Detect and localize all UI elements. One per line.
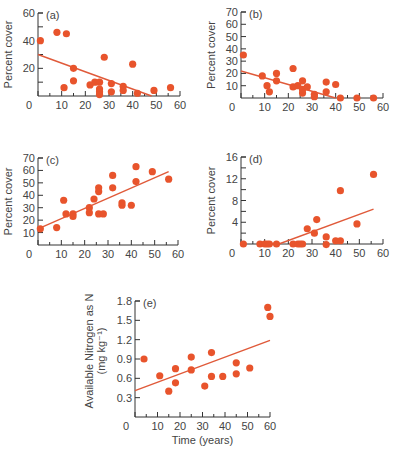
data-point	[60, 197, 67, 204]
data-point	[299, 240, 306, 247]
x-tick-label: 10	[55, 248, 67, 260]
data-point	[165, 176, 172, 183]
x-tick-label: 10	[259, 101, 271, 113]
y-tick-label: 4	[232, 216, 238, 228]
y-tick-label: 20	[23, 214, 35, 226]
data-point	[100, 210, 107, 217]
data-point	[266, 313, 273, 320]
y-tick-label: 40	[23, 35, 35, 47]
y-axis-title: Available Nitrogen as N	[83, 294, 95, 409]
trend-line	[38, 172, 169, 229]
y-tick-label: 40	[23, 189, 35, 201]
data-point	[128, 202, 135, 209]
y-tick-label: 0.3	[117, 392, 132, 404]
data-point	[289, 65, 296, 72]
data-point	[323, 241, 330, 248]
trend-line	[38, 55, 152, 97]
data-point	[188, 366, 195, 373]
data-point	[53, 29, 60, 36]
x-tick-label: 10	[56, 99, 68, 111]
data-point	[353, 94, 360, 101]
y-tick-label: 8	[232, 195, 238, 207]
x-tick-label: 0	[229, 247, 235, 259]
y-tick-label: 10	[23, 227, 35, 239]
data-point	[313, 216, 320, 223]
data-point	[37, 37, 44, 44]
data-point	[37, 225, 44, 232]
x-axis-title: Time (years)	[172, 434, 233, 446]
x-tick-label: 20	[282, 101, 294, 113]
y-tick-label: 16	[226, 151, 238, 163]
x-tick-label: 40	[127, 99, 139, 111]
data-point	[240, 240, 247, 247]
data-point	[118, 202, 125, 209]
y-axis-title: Percent cover	[205, 166, 217, 234]
data-point	[311, 230, 318, 237]
data-point	[311, 93, 318, 100]
y-tick-label: 70	[226, 6, 238, 18]
data-point	[208, 349, 215, 356]
y-axis-title: Percent cover	[205, 21, 217, 89]
y-axis-title: Percent cover	[2, 20, 14, 88]
panel-label: (e)	[143, 297, 156, 309]
data-point	[70, 77, 77, 84]
y-tick-label: 60	[226, 18, 238, 30]
x-tick-label: 60	[264, 420, 276, 432]
panel-c: 010203040506010203040506070(c)Percent co…	[2, 152, 184, 260]
data-point	[208, 373, 215, 380]
data-point	[353, 220, 360, 227]
data-point	[259, 72, 266, 79]
data-point	[299, 89, 306, 96]
x-tick-label: 60	[172, 248, 184, 260]
data-point	[132, 178, 139, 185]
data-point	[108, 88, 115, 95]
data-point	[172, 379, 179, 386]
data-point	[246, 364, 253, 371]
y-tick-label: 20	[23, 62, 35, 74]
y-tick-label: 30	[23, 202, 35, 214]
x-tick-label: 50	[150, 99, 162, 111]
data-point	[233, 359, 240, 366]
data-point	[165, 388, 172, 395]
data-point	[63, 30, 70, 37]
y-tick-label: 0.9	[117, 353, 132, 365]
y-tick-label: 20	[226, 67, 238, 79]
x-tick-label: 40	[330, 101, 342, 113]
x-tick-label: 40	[219, 420, 231, 432]
data-point	[70, 65, 77, 72]
y-tick-label: 60	[23, 164, 35, 176]
y-tick-label: 10	[226, 80, 238, 92]
y-tick-label: 1.2	[117, 334, 132, 346]
data-point	[304, 83, 311, 90]
data-point	[370, 171, 377, 178]
data-point	[219, 373, 226, 380]
x-tick-label: 0	[26, 99, 32, 111]
data-point	[140, 355, 147, 362]
data-point	[109, 172, 116, 179]
data-point	[167, 84, 174, 91]
data-point	[150, 87, 157, 94]
data-point	[60, 84, 67, 91]
x-tick-label: 0	[229, 101, 235, 113]
data-point	[323, 78, 330, 85]
y-tick-label: 40	[226, 43, 238, 55]
data-point	[332, 81, 339, 88]
scatter-figure: 0102030405060204060(a)Percent cover01020…	[0, 0, 397, 449]
data-point	[120, 87, 127, 94]
data-point	[86, 209, 93, 216]
x-tick-label: 30	[306, 247, 318, 259]
x-tick-label: 10	[151, 420, 163, 432]
x-tick-label: 50	[149, 248, 161, 260]
panel-label: (c)	[46, 154, 59, 166]
x-tick-label: 20	[79, 248, 91, 260]
data-point	[240, 51, 247, 58]
data-point	[273, 70, 280, 77]
data-point	[149, 168, 156, 175]
data-point	[129, 61, 136, 68]
data-point	[266, 88, 273, 95]
x-tick-label: 0	[26, 248, 32, 260]
x-tick-label: 50	[241, 420, 253, 432]
data-point	[109, 184, 116, 191]
data-point	[273, 240, 280, 247]
data-point	[188, 353, 195, 360]
